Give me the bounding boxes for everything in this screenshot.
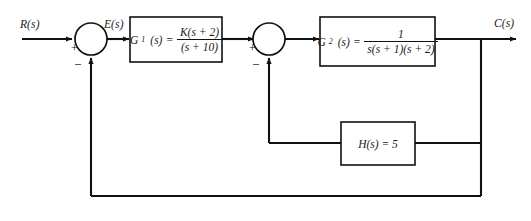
summer1-minus-sign: – xyxy=(75,57,81,69)
input-signal-label: R(s) xyxy=(20,19,40,31)
block-g1-name: G xyxy=(130,34,138,46)
diagram-canvas xyxy=(0,0,531,221)
summing-junction-1 xyxy=(75,23,107,55)
block-g2-denominator: s(s + 1)(s + 2) xyxy=(364,42,437,55)
block-g1-denominator: (s + 10) xyxy=(178,40,221,53)
block-g2-label: G2(s) = 1 s(s + 1)(s + 2) xyxy=(320,17,435,66)
block-h-label: H(s) = 5 xyxy=(341,122,415,165)
error-signal-label: E(s) xyxy=(104,19,124,31)
block-g2-subscript: 2 xyxy=(329,37,333,46)
output-signal-label: C(s) xyxy=(494,18,514,30)
block-h-text: H(s) = 5 xyxy=(358,138,398,150)
block-g1-label: G1(s) = K(s + 2) (s + 10) xyxy=(130,17,222,62)
summing-junction-2 xyxy=(253,23,285,55)
block-g2-numerator: 1 xyxy=(395,28,407,41)
block-g1-numerator: K(s + 2) xyxy=(177,26,222,39)
block-g2-fraction: 1 s(s + 1)(s + 2) xyxy=(364,28,437,55)
block-g1-fraction: K(s + 2) (s + 10) xyxy=(177,26,222,53)
summer2-minus-sign: – xyxy=(253,57,259,69)
block-g1-arg: (s) xyxy=(148,34,162,46)
summer2-plus-sign: + xyxy=(249,42,256,54)
block-diagram: R(s) E(s) C(s) + – + – G1(s) = K(s + 2) … xyxy=(0,0,531,221)
block-g2-arg: (s) xyxy=(336,36,350,48)
block-g2-name: G xyxy=(317,36,325,48)
block-g2-equals: = xyxy=(353,36,362,48)
block-g1-subscript: 1 xyxy=(141,35,145,44)
summer1-plus-sign: + xyxy=(71,42,78,54)
block-g1-equals: = xyxy=(165,34,174,46)
